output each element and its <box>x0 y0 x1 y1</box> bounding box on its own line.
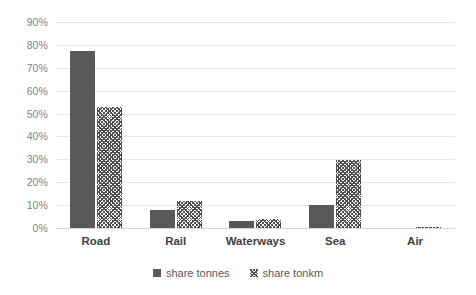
bar-chart: 0%10%20%30%40%50%60%70%80%90% RoadRailWa… <box>0 0 476 295</box>
bar-sea-share-tonnes[interactable] <box>309 205 334 228</box>
bar-sea-share-tonkm[interactable] <box>336 160 361 228</box>
bar-road-share-tonnes[interactable] <box>70 51 95 228</box>
y-axis-tick-label: 50% <box>0 108 48 119</box>
bar-rail-share-tonkm[interactable] <box>177 201 202 228</box>
bar-rail-share-tonnes[interactable] <box>150 210 175 228</box>
y-axis-tick-label: 20% <box>0 177 48 188</box>
x-axis-tick-label-sea: Sea <box>295 232 375 252</box>
y-axis-tick-label: 30% <box>0 154 48 165</box>
bar-group-road <box>56 22 136 228</box>
bar-waterways-share-tonkm[interactable] <box>256 219 281 228</box>
y-axis: 0%10%20%30%40%50%60%70%80%90% <box>0 22 48 228</box>
bar-group-waterways <box>216 22 296 228</box>
y-axis-tick-label: 90% <box>0 17 48 28</box>
x-axis-tick-label-road: Road <box>56 232 136 252</box>
bar-group-air <box>375 22 455 228</box>
legend-label: share tonnes <box>166 268 230 279</box>
y-axis-tick-label: 40% <box>0 131 48 142</box>
y-axis-tick-label: 60% <box>0 85 48 96</box>
bar-waterways-share-tonnes[interactable] <box>229 221 254 228</box>
bar-air-share-tonkm[interactable] <box>416 227 441 228</box>
legend-swatch-icon <box>153 269 161 277</box>
x-axis-tick-label-rail: Rail <box>136 232 216 252</box>
x-axis-tick-label-waterways: Waterways <box>216 232 296 252</box>
legend-label: share tonkm <box>263 268 324 279</box>
y-axis-tick-label: 70% <box>0 63 48 74</box>
y-axis-tick-label: 0% <box>0 223 48 234</box>
bar-road-share-tonkm[interactable] <box>97 107 122 228</box>
bar-group-rail <box>136 22 216 228</box>
bar-group-sea <box>295 22 375 228</box>
plot-area <box>56 22 455 228</box>
x-axis: RoadRailWaterwaysSeaAir <box>56 232 455 252</box>
legend-entry-share-tonkm[interactable]: share tonkm <box>250 268 324 279</box>
y-axis-tick-label: 80% <box>0 40 48 51</box>
gridline <box>56 228 455 229</box>
legend-entry-share-tonnes[interactable]: share tonnes <box>153 268 230 279</box>
chart-legend: share tonnesshare tonkm <box>0 262 476 284</box>
x-axis-tick-label-air: Air <box>375 232 455 252</box>
y-axis-tick-label: 10% <box>0 200 48 211</box>
legend-swatch-icon <box>250 269 258 277</box>
